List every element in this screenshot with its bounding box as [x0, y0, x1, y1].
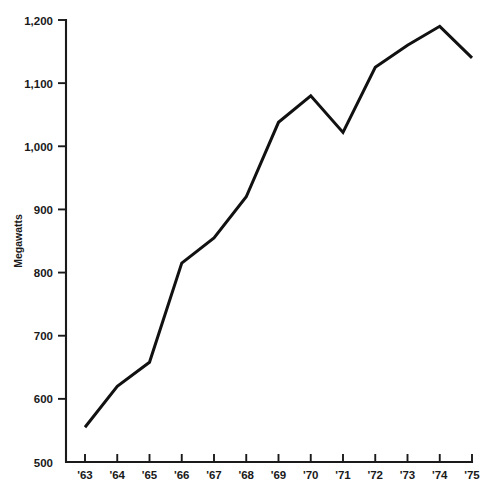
- x-tick-label: '72: [367, 469, 383, 481]
- y-tick-label: 600: [34, 393, 53, 405]
- y-axis-title: Megawatts: [12, 214, 24, 268]
- x-tick-label: '66: [174, 469, 190, 481]
- y-tick-label: 800: [34, 267, 53, 279]
- x-tick-label: '71: [335, 469, 351, 481]
- axis-lines: [66, 20, 472, 462]
- data-series-group: [85, 26, 472, 427]
- x-tick-label: '70: [303, 469, 319, 481]
- x-tick-label: '64: [109, 469, 125, 481]
- y-tick-label: 900: [34, 204, 53, 216]
- series-megawatts-line: [85, 26, 472, 427]
- x-tick-label: '65: [142, 469, 158, 481]
- y-tick-label: 500: [34, 457, 53, 469]
- chart-container: 1,2001,1001,000900800700600500 '63'64'65…: [0, 0, 487, 493]
- y-tick-label: 1,100: [24, 78, 53, 90]
- x-axis-tick-labels: '63'64'65'66'67'68'69'70'71'72'73'74'75: [77, 469, 480, 481]
- y-axis-title-text: Megawatts: [12, 214, 24, 268]
- x-tick-label: '75: [464, 469, 480, 481]
- x-tick-label: '67: [206, 469, 222, 481]
- y-tick-label: 1,000: [24, 141, 53, 153]
- line-chart: 1,2001,1001,000900800700600500 '63'64'65…: [0, 0, 487, 493]
- x-tick-label: '63: [77, 469, 93, 481]
- x-tick-label: '73: [400, 469, 416, 481]
- x-tick-label: '68: [238, 469, 254, 481]
- x-tick-label: '74: [432, 469, 448, 481]
- chart-axes: [58, 20, 472, 462]
- y-tick-label: 700: [34, 330, 53, 342]
- x-tick-label: '69: [271, 469, 287, 481]
- y-axis-tick-marks: [58, 20, 66, 399]
- x-axis-tick-marks: [85, 454, 472, 462]
- y-axis-tick-labels: 1,2001,1001,000900800700600500: [24, 15, 53, 469]
- y-tick-label: 1,200: [24, 15, 53, 27]
